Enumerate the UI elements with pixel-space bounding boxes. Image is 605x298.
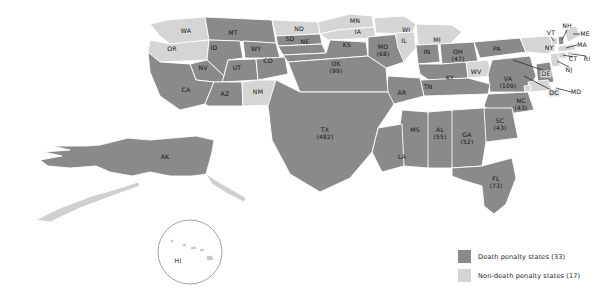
state-value-VA: (109) [500, 82, 517, 89]
alaska-inset [36, 136, 246, 222]
state-label-LA: LA [398, 153, 406, 160]
state-label-AZ: AZ [221, 90, 230, 97]
state-label-KY: KY [446, 74, 454, 81]
state-label-TX: TX(482) [317, 126, 334, 140]
state-label-SC: SC(43) [494, 117, 507, 131]
state-label-NY: NY [544, 44, 555, 51]
state-label-ID: ID [211, 44, 218, 51]
state-WA[interactable] [150, 17, 209, 44]
hawaii-inset-circle [158, 220, 222, 284]
legend-label-death-penalty: Death penalty states (33) [478, 253, 565, 261]
state-value-NC: (43) [515, 104, 528, 111]
legend-item-non-death-penalty[interactable]: Non-death penalty states (17) [458, 269, 600, 282]
alaska-southeast-panhandle[interactable] [206, 174, 246, 202]
state-label-MA: MA [577, 41, 587, 48]
state-OR[interactable] [148, 40, 209, 62]
state-value-OK: (99) [330, 67, 343, 74]
state-value-MO: (68) [377, 50, 390, 57]
state-label-NM: NM [253, 88, 263, 95]
state-label-HI: HI [175, 257, 182, 264]
state-label-MN: MN [350, 17, 360, 24]
hawaii-inset [158, 220, 222, 284]
state-value-OH: (47) [452, 55, 465, 62]
state-label-VA: VA(109) [500, 75, 517, 89]
state-label-ND: ND [294, 25, 304, 32]
state-label-TN: TN [424, 83, 433, 90]
state-label-WY: WY [251, 45, 261, 52]
alaska-aleutian-chain[interactable] [36, 182, 140, 222]
state-MT[interactable] [205, 17, 276, 43]
state-NJ[interactable] [550, 53, 560, 67]
state-label-WV: WV [471, 68, 482, 75]
state-label-IL: IL [401, 37, 407, 44]
state-label-CA: CA [182, 86, 191, 93]
state-label-AR: AR [398, 89, 407, 96]
state-label-GA: GA(52) [461, 131, 474, 145]
state-label-IA: IA [355, 28, 361, 35]
state-label-ME: ME [580, 30, 590, 37]
state-label-SD: SD [286, 35, 295, 42]
state-label-AK: AK [161, 153, 170, 160]
state-label-AL: AL(55) [434, 126, 447, 140]
state-label-NV: NV [198, 64, 207, 71]
legend-label-non-death-penalty: Non-death penalty states (17) [478, 272, 580, 280]
state-label-MT: MT [228, 29, 237, 36]
state-label-WA: WA [181, 27, 191, 34]
state-label-VT: VT [547, 29, 555, 36]
state-value-GA: (52) [461, 138, 474, 145]
state-AK[interactable] [40, 136, 214, 176]
state-label-MI: MI [433, 36, 440, 43]
state-label-OR: OR [167, 45, 176, 52]
state-label-NJ: NJ [566, 66, 573, 73]
state-label-CO: CO [263, 57, 273, 64]
state-label-UT: UT [233, 64, 242, 71]
state-label-PA: PA [493, 45, 501, 52]
state-label-IN: IN [424, 48, 431, 55]
legend-swatch-death-penalty [458, 250, 471, 263]
state-label-OH: OH(47) [452, 48, 465, 62]
state-label-MD: MD [571, 88, 581, 95]
state-label-DE: DE [541, 70, 552, 77]
state-label-FL: FL(73) [490, 175, 503, 189]
state-WY[interactable] [243, 41, 280, 58]
state-value-AL: (55) [434, 133, 447, 140]
state-value-TX: (482) [317, 133, 334, 140]
state-label-CT: CT [569, 55, 577, 62]
state-DC[interactable] [524, 85, 531, 92]
state-label-OK: OK(99) [330, 60, 343, 74]
state-label-KS: KS [343, 41, 351, 48]
state-value-FL: (73) [490, 182, 503, 189]
us-death-penalty-map: WA OR MT ID WY NV UT CO CA AZ NM ND SD N… [0, 0, 605, 298]
legend-swatch-non-death-penalty [458, 269, 471, 282]
state-label-MS: MS [410, 126, 420, 133]
state-value-SC: (43) [494, 124, 507, 131]
state-label-NC: NC(43) [515, 97, 528, 111]
state-label-NH: NH [562, 22, 572, 29]
legend-item-death-penalty[interactable]: Death penalty states (33) [458, 250, 600, 263]
map-legend: Death penalty states (33) Non-death pena… [458, 250, 600, 288]
state-label-MO: MO(68) [377, 43, 390, 57]
state-label-WI: WI [402, 26, 410, 33]
state-label-NE: NE [301, 38, 310, 45]
state-label-DC: DC [548, 89, 559, 96]
state-label-RI: RI [584, 55, 590, 62]
